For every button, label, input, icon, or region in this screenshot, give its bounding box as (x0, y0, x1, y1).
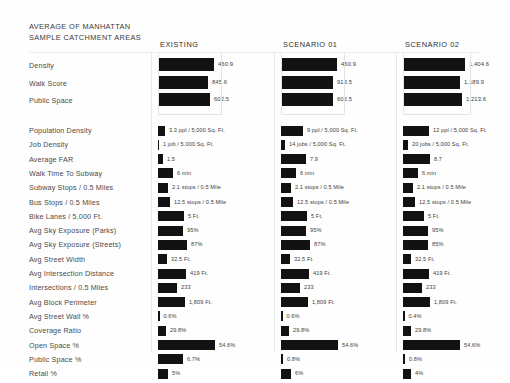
bar-value-label: 85% (432, 241, 444, 248)
bar-value-label: 95% (432, 227, 444, 234)
page-title: AVERAGE OF MANHATTAN SAMPLE CATCHMENT AR… (29, 22, 159, 43)
bar (403, 140, 408, 150)
bar (281, 326, 289, 336)
bar (403, 240, 428, 250)
bar (281, 283, 300, 293)
row-label: Public Space (29, 96, 73, 105)
row-label: Coverage Ratio (29, 326, 81, 335)
table-row: Bus Stops / 0.5 Miles12.5 stops / 0.5 Mi… (0, 197, 510, 211)
bar-value-label: 3.3 ppl / 5,000 Sq. Ft. (169, 127, 225, 134)
bar-value-label: 32.5 Ft. (171, 256, 191, 263)
bar (281, 240, 310, 250)
row-label: Avg Sky Exposure (Parks) (29, 226, 116, 235)
bar-value-label: 6.7% (187, 356, 200, 363)
bar-value-label: 7.9 (310, 156, 318, 163)
row-label: Walk Time To Subway (29, 169, 102, 178)
bar (403, 311, 405, 321)
bar (403, 211, 424, 221)
bar (158, 197, 170, 207)
row-label: Avg Intersection Distance (29, 269, 114, 278)
bar-value-label: 5 Ft. (311, 213, 323, 220)
table-row: Public Space %6.7%0.8%0.8% (0, 354, 510, 368)
bar (403, 354, 405, 364)
bar (158, 154, 163, 164)
bar-value-label: 87% (191, 241, 203, 248)
bar-value-label: 87% (314, 241, 326, 248)
bar (281, 340, 338, 350)
bar-value-label: 29.8% (415, 327, 431, 334)
column-header-existing: EXISTING (160, 40, 199, 49)
bar-value-label: 6 min (422, 170, 436, 177)
row-label: Job Density (29, 140, 68, 149)
page-title-line-1: AVERAGE OF MANHATTAN (29, 22, 159, 33)
bar (403, 297, 430, 307)
bar-value-label: 12.5 stops / 0.5 Mile (297, 199, 349, 206)
bar (403, 254, 411, 264)
bar (158, 211, 184, 221)
table-row: Avg Intersection Distance419 Ft.419 Ft.4… (0, 269, 510, 283)
bar-value-label: 1,809 Ft. (312, 299, 335, 306)
bar-value-label: 419 Ft. (313, 270, 331, 277)
bar-value-label: 5 Ft. (188, 213, 200, 220)
bar (281, 254, 290, 264)
bar (158, 340, 215, 350)
bar-value-label: 20 jobs / 5,000 Sq. Ft. (412, 141, 469, 148)
bar (158, 311, 160, 321)
bar (403, 340, 460, 350)
bar (281, 369, 291, 379)
bar (281, 168, 296, 178)
bar-value-label: 95% (187, 227, 199, 234)
bar-value-label: 5% (172, 370, 180, 377)
row-label: Public Space % (29, 355, 81, 364)
bar (403, 126, 429, 136)
bar (158, 354, 183, 364)
bar-value-label: 6 min (300, 170, 314, 177)
bar-value-label: 32.5 Ft. (294, 256, 314, 263)
table-row: Avg Street Width32.5 Ft.32.5 Ft.32.5 Ft. (0, 254, 510, 268)
bar-value-label: 419 Ft. (190, 270, 208, 277)
bar-value-label: 12.5 stops / 0.5 Mile (174, 199, 226, 206)
bar (281, 154, 306, 164)
table-row: Avg Street Wall %0.6%0.6%0.4% (0, 311, 510, 325)
bar (281, 140, 285, 150)
table-row: Retail %5%6%4% (0, 369, 510, 383)
row-label: Avg Block Perimeter (29, 298, 97, 307)
bar-value-label: 1.5 (167, 156, 175, 163)
bar-value-label: 2.1 stops / 0.5 Mile (417, 184, 466, 191)
bar (403, 183, 413, 193)
column-header-scenario01: SCENARIO 01 (283, 40, 337, 49)
bar-value-label: 6 min (177, 170, 191, 177)
bar (158, 126, 165, 136)
table-row: Avg Sky Exposure (Streets)87%87%85% (0, 240, 510, 254)
bar-value-label: 233 (304, 284, 314, 291)
row-label: Subway Stops / 0.5 Miles (29, 183, 113, 192)
table-row: Intersections / 0.5 Miles233233233 (0, 283, 510, 297)
row-label: Bike Lanes / 5,000 Ft. (29, 212, 102, 221)
column-header-scenario02: SCENARIO 02 (405, 40, 459, 49)
bar-value-label: 54.6% (464, 342, 480, 349)
column-bracket (158, 53, 222, 115)
bar (403, 154, 430, 164)
bar-value-label: 8.7 (434, 156, 442, 163)
column-bracket (281, 53, 345, 115)
row-label: Population Density (29, 126, 92, 135)
table-row: Population Density3.3 ppl / 5,000 Sq. Ft… (0, 126, 510, 140)
bar-value-label: 2.1 stops / 0.5 Mile (295, 184, 344, 191)
row-label: Avg Street Width (29, 255, 85, 264)
bar (281, 197, 293, 207)
bar (403, 269, 429, 279)
bar (281, 269, 309, 279)
bar-value-label: 14 jobs / 5,000 Sq. Ft. (289, 141, 346, 148)
bar (403, 226, 428, 236)
bar-value-label: 419 Ft. (433, 270, 451, 277)
bar (158, 326, 166, 336)
bar-value-label: 1,809 Ft. (189, 299, 212, 306)
page-title-line-2: SAMPLE CATCHMENT AREAS (29, 33, 159, 44)
row-label: Open Space % (29, 341, 79, 350)
bar-value-label: 9 ppl / 5,000 Sq. Ft. (307, 127, 358, 134)
bar-value-label: 95% (310, 227, 322, 234)
row-label: Density (29, 61, 54, 70)
table-row: Avg Sky Exposure (Parks)95%95%95% (0, 226, 510, 240)
bar-value-label: 29.8% (170, 327, 186, 334)
table-row: Average FAR1.57.98.7 (0, 154, 510, 168)
